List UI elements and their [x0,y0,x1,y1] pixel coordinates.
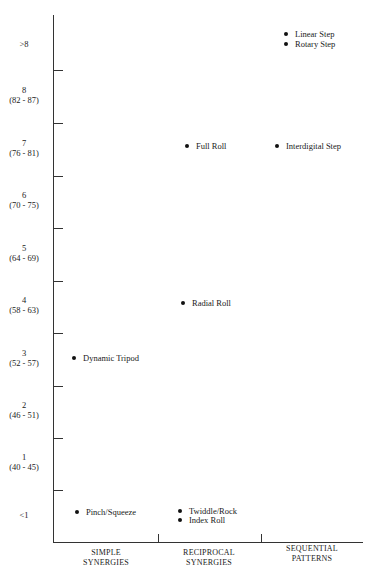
x-tick [261,534,262,542]
y-tick [53,176,63,177]
y-tick [53,438,63,439]
y-label: 1(40 - 45) [0,452,48,472]
dot-marker [178,518,182,522]
dot-marker [275,144,279,148]
y-tick [53,228,63,229]
y-tick [53,333,63,334]
y-tick [53,123,63,124]
dot-marker [75,510,79,514]
y-label: <1 [0,510,48,520]
y-label: >8 [0,39,48,49]
data-point: Index Roll [178,515,225,525]
dot-marker [185,144,189,148]
data-point: Pinch/Squeeze [75,507,136,517]
x-axis-line [53,542,363,543]
x-label-simple-synergies: SIMPLESYNERGIES [56,548,156,568]
dot-marker [181,301,185,305]
data-point: Dynamic Tripod [72,353,139,363]
data-point: Interdigital Step [275,141,341,151]
y-label: 6(70 - 75) [0,190,48,210]
y-label: 2(46 - 51) [0,400,48,420]
x-label-reciprocal-synergies: RECIPROCALSYNERGIES [159,548,259,568]
y-label: 5(64 - 69) [0,243,48,263]
dot-marker [72,356,76,360]
dot-marker [178,509,182,513]
y-axis-line [53,15,54,542]
y-label: 7(76 - 81) [0,138,48,158]
data-point: Rotary Step [284,39,335,49]
data-point: Full Roll [185,141,226,151]
data-point: Linear Step [284,29,334,39]
y-label: 8(82 - 87) [0,85,48,105]
x-label-sequential-patterns: SEQUENTIALPATTERNS [262,544,362,564]
y-label: 4(58 - 63) [0,295,48,315]
y-tick [53,70,63,71]
y-tick [53,490,63,491]
data-point: Radial Roll [181,298,231,308]
y-tick [53,281,63,282]
dot-marker [284,42,288,46]
dot-marker [284,32,288,36]
y-tick [53,386,63,387]
x-tick [158,534,159,542]
y-label: 3(52 - 57) [0,348,48,368]
